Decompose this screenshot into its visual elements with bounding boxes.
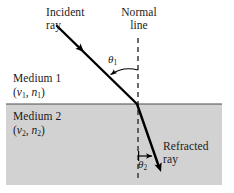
medium2-velocity-subscript: 2 xyxy=(22,129,26,138)
medium1-index-subscript: 1 xyxy=(37,91,41,100)
medium1-properties: (v1, n1) xyxy=(13,86,45,98)
theta1-subscript: 1 xyxy=(113,58,117,67)
theta2-subscript: 2 xyxy=(143,163,147,172)
theta1-arc-arrowhead xyxy=(109,69,117,77)
incident-ray-line xyxy=(57,26,137,104)
refracted-ray-label: Refracted ray xyxy=(163,140,209,166)
incident-ray-label: Incident ray xyxy=(46,6,84,32)
medium2-properties: (v2, n2) xyxy=(13,124,45,136)
normal-line-label: Normal line xyxy=(113,6,165,32)
refraction-diagram: Incident ray Normal line θ1 Medium 1 (v1… xyxy=(0,0,234,193)
theta2-label: θ2 xyxy=(138,158,147,170)
paren-close: ) xyxy=(41,86,45,98)
medium2-label: Medium 2 xyxy=(13,110,61,123)
properties-comma: , xyxy=(26,124,29,136)
medium1-velocity-subscript: 1 xyxy=(22,91,26,100)
medium2-index-subscript: 2 xyxy=(37,129,41,138)
theta1-label: θ1 xyxy=(108,53,117,65)
properties-comma: , xyxy=(26,86,29,98)
paren-close: ) xyxy=(41,124,45,136)
medium1-label: Medium 1 xyxy=(13,72,61,85)
